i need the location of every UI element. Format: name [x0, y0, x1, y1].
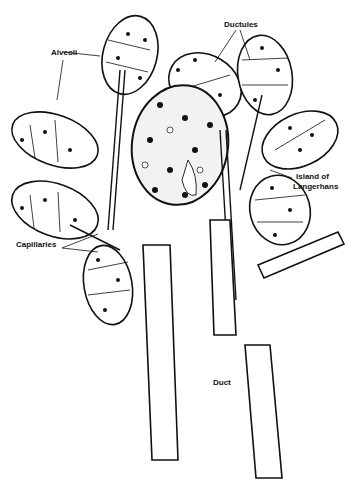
alveolus-bottom-left: [77, 241, 138, 328]
pancreas-diagram: Alveoli Ductules Island of Langerhans Ca…: [0, 0, 357, 486]
label-ductules: Ductules: [224, 20, 258, 30]
label-capillaries: Capillaries: [16, 240, 56, 250]
label-duct: Duct: [213, 378, 231, 388]
label-island-line1: Island of: [296, 172, 329, 182]
main-duct: [143, 220, 344, 478]
alveolus-top-right-2: [231, 31, 298, 119]
alveolus-lower-left: [4, 170, 106, 250]
label-island-line2: Langerhans: [293, 182, 338, 192]
alveolus-top-left: [94, 9, 167, 100]
alveolus-left: [4, 101, 106, 179]
label-alveoli: Alveoli: [51, 48, 77, 58]
